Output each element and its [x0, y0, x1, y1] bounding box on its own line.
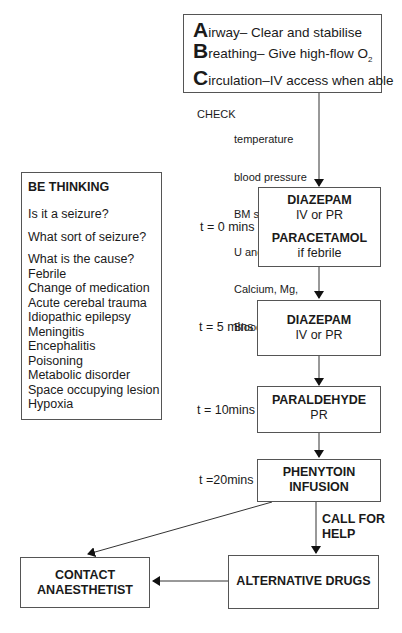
cause-item: Hypoxia — [28, 397, 161, 412]
cause-item: Poisoning — [28, 354, 161, 369]
cause-item: Metabolic disorder — [28, 368, 161, 383]
question: What is the cause? — [28, 252, 161, 267]
time-label-0: t = 0 mins — [200, 220, 255, 234]
call-for-help: CALL FOR HELP — [322, 512, 385, 542]
circulation-line: Circulation–IV access when able — [193, 69, 381, 90]
cause-item: Meningitis — [28, 325, 161, 340]
cause-item: Febrile — [28, 267, 161, 282]
cause-item: Change of medication — [28, 281, 161, 296]
alternative-drugs-box: ALTERNATIVE DRUGS — [228, 555, 379, 609]
cause-list: Febrile Change of medication Acute cereb… — [28, 267, 161, 412]
time-label-10: t = 10mins — [197, 403, 255, 417]
step-box-paraldehyde: PARALDEHYDE PR — [257, 386, 381, 433]
question: Is it a seizure? — [28, 207, 161, 222]
airway-line: Airway– Clear and stabilise — [193, 21, 381, 42]
check-label: CHECK — [197, 108, 236, 121]
step-box-diazepam: DIAZEPAM IV or PR — [257, 300, 381, 356]
cause-item: Acute cerebal trauma — [28, 296, 161, 311]
contact-anaesthetist-box: CONTACT ANAESTHETIST — [20, 557, 150, 608]
abc-box: Airway– Clear and stabilise Breathing– G… — [183, 14, 382, 93]
step-box-diazepam-paracetamol: DIAZEPAM IV or PR PARACETAMOL if febrile — [258, 187, 381, 267]
time-label-5: t = 5 mins — [199, 320, 254, 334]
be-thinking-title: BE THINKING — [28, 180, 161, 194]
cause-item: Space occupying lesion — [28, 383, 161, 398]
breathing-line: Breathing– Give high-flow O2 — [193, 42, 381, 69]
cause-item: Encephalitis — [28, 339, 161, 354]
question: What sort of seizure? — [28, 230, 161, 245]
cause-item: Idiopathic epilepsy — [28, 310, 161, 325]
time-label-20: t =20mins — [199, 473, 254, 487]
step-box-phenytoin: PHENYTOIN INFUSION — [257, 459, 381, 502]
be-thinking-box: BE THINKING Is it a seizure? What sort o… — [21, 172, 162, 420]
